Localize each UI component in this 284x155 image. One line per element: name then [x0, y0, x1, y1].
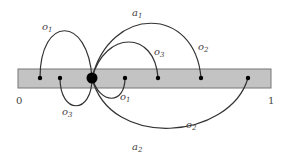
point-p2: [58, 76, 62, 80]
point-p5: [156, 76, 160, 80]
axis-label-0: 0: [16, 95, 22, 106]
label-o2: o2: [186, 119, 197, 132]
label-o2: o2: [198, 41, 209, 54]
unit-interval-bar: [18, 69, 271, 88]
point-p6: [199, 76, 203, 80]
label-a2: a2: [132, 141, 143, 154]
diagram-canvas: o1a1o3o2o3o1o2a2 01: [0, 0, 284, 155]
label-a1: a1: [132, 7, 142, 20]
axis-label-1: 1: [268, 95, 274, 106]
point-center: [87, 73, 98, 84]
label-o1: o1: [42, 21, 53, 34]
point-p7: [246, 76, 250, 80]
point-p1: [38, 76, 42, 80]
label-o1: o1: [120, 91, 131, 104]
label-o3: o3: [154, 46, 165, 59]
point-p4: [123, 76, 127, 80]
label-o3: o3: [62, 106, 73, 119]
